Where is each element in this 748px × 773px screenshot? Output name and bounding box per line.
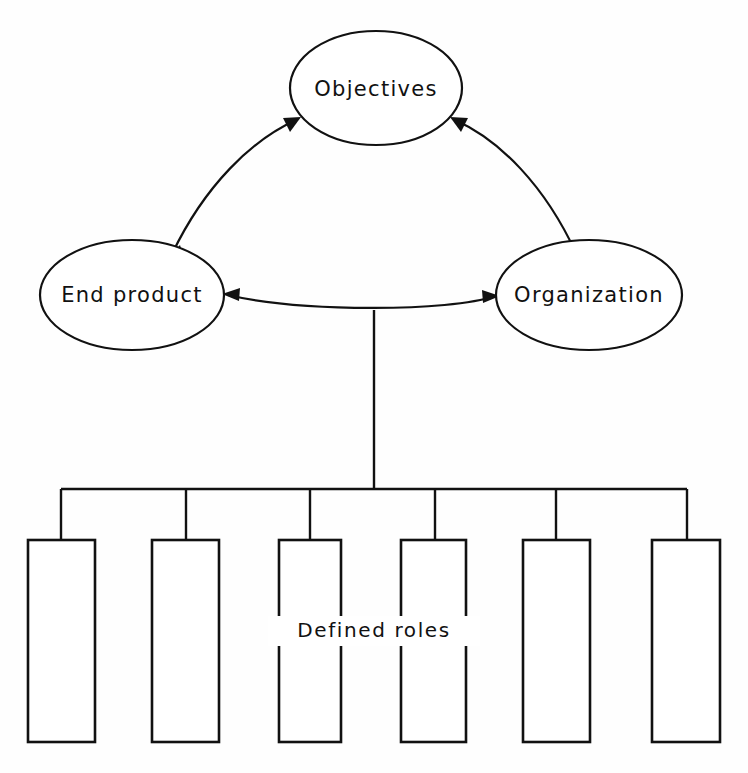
tree-drops	[61, 489, 687, 541]
node-end-product[interactable]: End product	[40, 240, 224, 350]
diagram-canvas: Objectives End product Organization Defi…	[0, 0, 748, 773]
node-organization[interactable]: Organization	[496, 240, 682, 350]
role-box[interactable]	[28, 540, 95, 742]
defined-roles-annotation: Defined roles	[268, 616, 480, 646]
figure-root: Objectives End product Organization Defi…	[0, 0, 748, 773]
curve-left	[172, 120, 296, 254]
objectives-label: Objectives	[314, 77, 438, 101]
end-product-label: End product	[61, 283, 203, 307]
role-box[interactable]	[152, 540, 219, 742]
node-objectives[interactable]: Objectives	[290, 31, 462, 145]
defined-roles-label: Defined roles	[297, 618, 450, 642]
curve-right	[455, 120, 576, 253]
connector-end-product-objectives	[168, 117, 301, 261]
connector-objectives-organization	[450, 117, 580, 261]
role-box[interactable]	[523, 540, 590, 742]
role-box[interactable]	[652, 540, 720, 742]
organization-label: Organization	[514, 283, 664, 307]
connector-end-product-organization	[222, 288, 500, 308]
curve-bottom	[228, 295, 495, 308]
